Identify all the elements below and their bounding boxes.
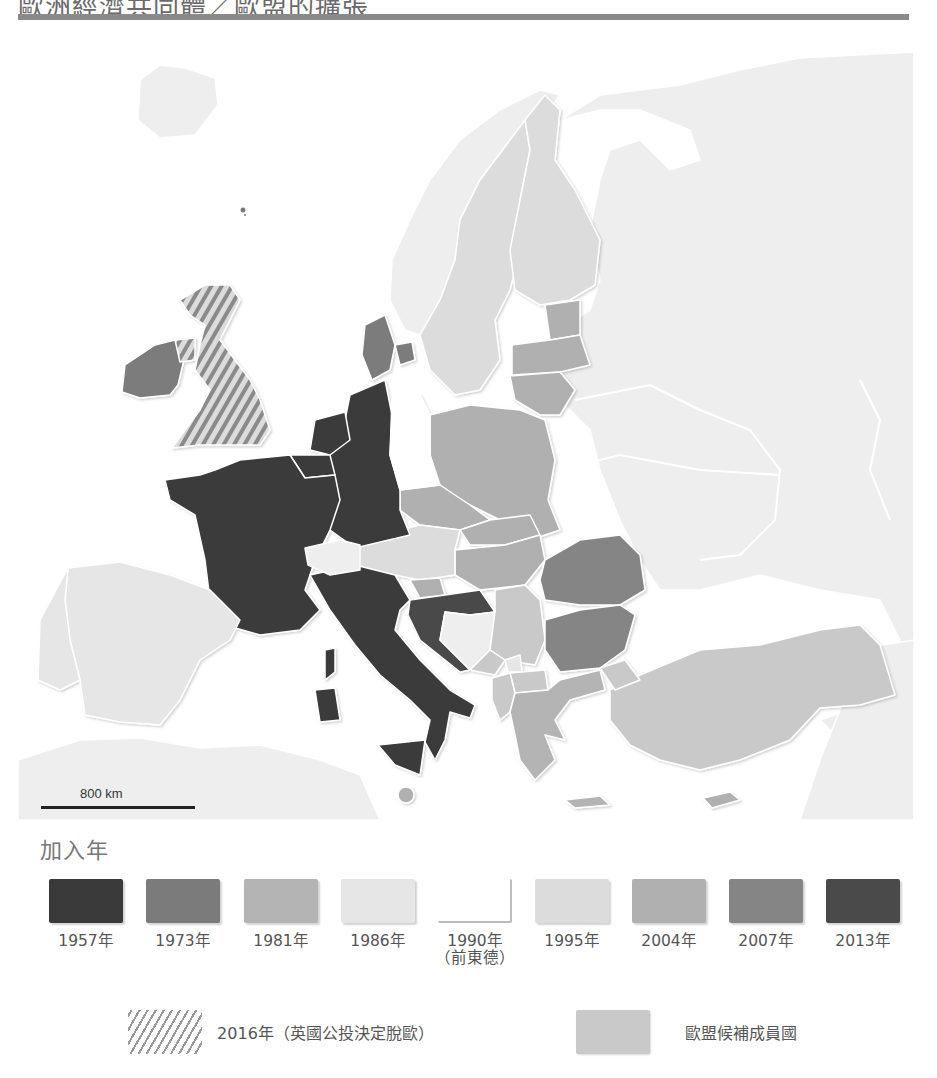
- legend-item-1957: 1957年: [38, 879, 134, 950]
- legend-item-2013: 2013年: [815, 879, 911, 950]
- legend-item-1990: 1990年 （前東德）: [427, 879, 523, 967]
- legend-year-row: 1957年 1973年 1981年 1986年 1990年 （前東德） 1995…: [38, 879, 918, 979]
- scale-label: 800 km: [80, 786, 123, 801]
- country-denmark: [362, 315, 395, 380]
- island-crete: [565, 796, 610, 808]
- legend-label: 1990年: [427, 933, 523, 950]
- swatch-2013: [826, 879, 900, 923]
- swatch-candidate: [576, 1010, 650, 1054]
- brexit-label: 2016年（英國公投決定脫歐）: [217, 1020, 434, 1044]
- title-divider: [18, 14, 909, 20]
- legend-label: 1957年: [38, 933, 134, 950]
- legend-item-1973: 1973年: [135, 879, 231, 950]
- legend-label: 1986年: [330, 933, 426, 950]
- swatch-1981: [244, 879, 318, 923]
- swatch-2007: [729, 879, 803, 923]
- island-zealand: [395, 342, 415, 365]
- legend-item-2007: 2007年: [718, 879, 814, 950]
- legend-label: 2007年: [718, 933, 814, 950]
- country-malta: [398, 787, 414, 803]
- island-sardinia: [315, 688, 340, 722]
- candidate-label: 歐盟候補成員國: [685, 1020, 797, 1044]
- legend-label: 1973年: [135, 933, 231, 950]
- legend-brexit: 2016年（英國公投決定脫歐）: [128, 1010, 434, 1054]
- swatch-1986: [341, 879, 415, 923]
- swatch-brexit-hatch: [128, 1010, 202, 1054]
- island-sicily: [378, 740, 425, 775]
- legend-item-2004: 2004年: [621, 879, 717, 950]
- legend-item-1995: 1995年: [524, 879, 620, 950]
- legend-sublabel: （前東德）: [427, 950, 523, 967]
- country-estonia: [545, 300, 580, 340]
- europe-map: [18, 48, 914, 820]
- country-romania: [540, 535, 645, 605]
- swatch-1990: [438, 879, 512, 923]
- legend-label: 1995年: [524, 933, 620, 950]
- island-faroe: [241, 208, 246, 213]
- scale-bar: [41, 806, 195, 809]
- swatch-2004: [632, 879, 706, 923]
- legend-label: 2004年: [621, 933, 717, 950]
- country-lithuania: [510, 372, 575, 415]
- swatch-1957: [49, 879, 123, 923]
- legend-label: 1981年: [233, 933, 329, 950]
- swatch-1995: [535, 879, 609, 923]
- country-macedonia: [510, 670, 548, 693]
- legend-item-1986: 1986年: [330, 879, 426, 950]
- legend-label: 2013年: [815, 933, 911, 950]
- legend-item-1981: 1981年: [233, 879, 329, 950]
- country-serbia: [490, 585, 545, 665]
- country-ireland: [122, 340, 185, 398]
- country-cyprus: [703, 792, 740, 808]
- island-corsica: [325, 648, 335, 680]
- legend-title: 加入年: [40, 832, 109, 864]
- legend-candidate: 歐盟候補成員國: [576, 1010, 797, 1054]
- swatch-1973: [146, 879, 220, 923]
- country-uk: [172, 285, 270, 448]
